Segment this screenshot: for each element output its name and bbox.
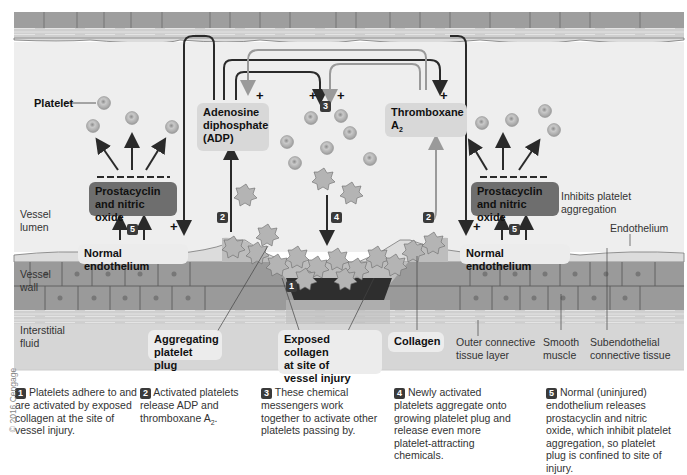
- prostacyclin-box-left: Prostacyclinand nitric oxide: [89, 182, 177, 216]
- plus-sign: +: [440, 90, 448, 103]
- exposed-collagen-label: Exposed collagenat site ofvessel injury: [278, 330, 382, 374]
- plus-sign: +: [256, 90, 264, 103]
- adp-box: Adenosinediphosphate(ADP): [197, 103, 269, 151]
- outer-connective-label: Outer connectivetissue layer: [456, 336, 535, 361]
- platelet-label: Platelet: [34, 97, 73, 110]
- plus-sign: +: [337, 90, 345, 103]
- aggregating-plug-label: Aggregatingplatelet plug: [148, 330, 222, 360]
- region-interstitial-fluid: Interstitialfluid: [20, 324, 65, 349]
- normal-endothelium-right: Normal endothelium: [460, 244, 570, 264]
- caption-step-2: 2 Activated platelets release ADP and th…: [140, 386, 250, 429]
- caption-step-3: 3 These chemical messengers work togethe…: [261, 386, 381, 437]
- inhibits-aggregation-label: Inhibits plateletaggregation: [561, 190, 631, 215]
- step-marker-4: 4: [331, 212, 342, 223]
- normal-endothelium-left: Normal endothelium: [78, 244, 188, 264]
- plus-sign: +: [309, 90, 317, 103]
- step-marker-5: 5: [127, 224, 138, 235]
- step-marker-3: 3: [320, 101, 331, 112]
- prostacyclin-box-right: Prostacyclinand nitric oxide: [471, 182, 559, 216]
- step-marker-2: 2: [217, 212, 228, 223]
- caption-step-4: 4 Newly activated platelets aggregate on…: [394, 386, 512, 462]
- step-marker-5: 5: [509, 224, 520, 235]
- plus-sign: +: [170, 221, 178, 234]
- region-vessel-lumen: Vessellumen: [20, 208, 51, 233]
- step-marker-1: 1: [286, 281, 297, 292]
- caption-step-5: 5 Normal (uninjured) endothelium release…: [546, 386, 676, 475]
- thromboxane-box: ThromboxaneA2: [385, 103, 467, 137]
- collagen-label: Collagen: [388, 332, 444, 352]
- smooth-muscle-label: Smoothmuscle: [543, 336, 579, 361]
- subendothelial-label: Subendothelialconnective tissue: [590, 336, 671, 361]
- step-marker-2: 2: [423, 212, 434, 223]
- copyright-notice: © 2016 Cengage: [8, 365, 18, 435]
- region-vessel-wall: Vesselwall: [20, 268, 51, 293]
- platelet-plug-diagram: Vessellumen Vesselwall Interstitialfluid…: [0, 0, 687, 475]
- endothelium-label: Endothelium: [610, 222, 668, 235]
- caption-step-1: 1 Platelets adhere to and are activated …: [15, 386, 140, 437]
- plus-sign: +: [473, 221, 481, 234]
